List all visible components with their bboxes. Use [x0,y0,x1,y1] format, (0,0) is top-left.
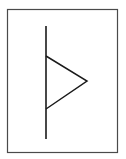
frame-border [8,10,118,153]
diagram-canvas [0,0,126,159]
